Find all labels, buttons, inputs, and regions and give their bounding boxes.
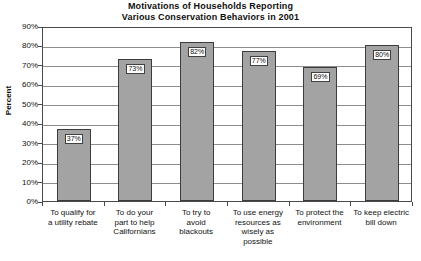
x-tick-mark xyxy=(42,202,43,206)
bar[interactable]: 80% xyxy=(365,45,399,201)
y-tick-label: 20% xyxy=(6,158,38,167)
x-category-label-line: To qualify for xyxy=(42,208,104,218)
x-category-label-line: wisely as xyxy=(227,227,289,237)
bar-value-label: 69% xyxy=(311,72,329,82)
x-category-label-line: resources as xyxy=(227,218,289,228)
x-category-label-line: avoid xyxy=(165,218,227,228)
bar-slot: 73% xyxy=(105,28,167,201)
bar-slot: 77% xyxy=(228,28,290,201)
bar-value-label: 77% xyxy=(250,56,268,66)
y-tick-label: 0% xyxy=(6,197,38,206)
bar[interactable]: 82% xyxy=(180,42,214,201)
y-tick-label: 60% xyxy=(6,80,38,89)
bar-value-label: 80% xyxy=(373,50,391,60)
x-category-label-line: Californians xyxy=(104,227,166,237)
y-tick-label: 10% xyxy=(6,178,38,187)
y-tick-label: 40% xyxy=(6,119,38,128)
x-category-label: To try toavoidblackouts xyxy=(165,208,227,237)
bar-slot: 82% xyxy=(166,28,228,201)
x-category-label-line: To use energy xyxy=(227,208,289,218)
y-tick-label: 90% xyxy=(6,22,38,31)
x-category-label: To keep electricbill down xyxy=(350,208,412,227)
x-category-label-line: To protect the xyxy=(289,208,351,218)
x-category-label-line: blackouts xyxy=(165,227,227,237)
x-category-label-line: To do your xyxy=(104,208,166,218)
y-tick-label: 30% xyxy=(6,139,38,148)
x-tick-mark xyxy=(165,202,166,206)
x-tick-mark xyxy=(104,202,105,206)
x-tick-mark xyxy=(227,202,228,206)
bar[interactable]: 73% xyxy=(118,59,152,201)
bar[interactable]: 69% xyxy=(303,67,337,201)
bar-value-label: 82% xyxy=(188,47,206,57)
x-category-label-line: a utility rebate xyxy=(42,218,104,228)
chart-title-line-2: Various Conservation Behaviors in 2001 xyxy=(0,12,421,23)
y-tick-label: 50% xyxy=(6,100,38,109)
x-tick-mark xyxy=(412,202,413,206)
x-category-label-line: possible xyxy=(227,237,289,247)
x-category-label: To protect theenvironment xyxy=(289,208,351,227)
chart-title: Motivations of Households Reporting Vari… xyxy=(0,1,421,23)
bar[interactable]: 77% xyxy=(242,51,276,201)
bar-slot: 80% xyxy=(351,28,413,201)
y-tick-label: 70% xyxy=(6,61,38,70)
bar-value-label: 73% xyxy=(126,64,144,74)
x-category-label-line: environment xyxy=(289,218,351,228)
bar-value-label: 37% xyxy=(65,134,83,144)
x-category-label: To do yourpart to helpCalifornians xyxy=(104,208,166,237)
x-category-label-line: To try to xyxy=(165,208,227,218)
x-category-label-line: To keep electric xyxy=(350,208,412,218)
x-category-label: To qualify fora utility rebate xyxy=(42,208,104,227)
bar-chart: Motivations of Households Reporting Vari… xyxy=(0,0,421,261)
plot-area: 37%73%82%77%69%80% xyxy=(42,27,412,202)
x-category-label: To use energyresources aswisely aspossib… xyxy=(227,208,289,246)
bar[interactable]: 37% xyxy=(57,129,91,201)
x-category-label-line: bill down xyxy=(350,218,412,228)
x-tick-mark xyxy=(350,202,351,206)
x-tick-mark xyxy=(289,202,290,206)
x-category-label-line: part to help xyxy=(104,218,166,228)
bar-slot: 69% xyxy=(290,28,352,201)
chart-title-line-1: Motivations of Households Reporting xyxy=(0,1,421,12)
y-tick-label: 80% xyxy=(6,41,38,50)
bar-slot: 37% xyxy=(43,28,105,201)
